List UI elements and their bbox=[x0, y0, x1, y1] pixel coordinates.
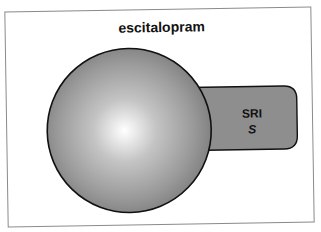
drug-title: escitalopram bbox=[118, 18, 205, 35]
drug-sphere bbox=[46, 47, 213, 214]
escitalopram-diagram: escitalopram SRI S bbox=[0, 0, 321, 232]
tab-label-s: S bbox=[248, 122, 256, 136]
tab-label-sri: SRI bbox=[242, 106, 262, 120]
